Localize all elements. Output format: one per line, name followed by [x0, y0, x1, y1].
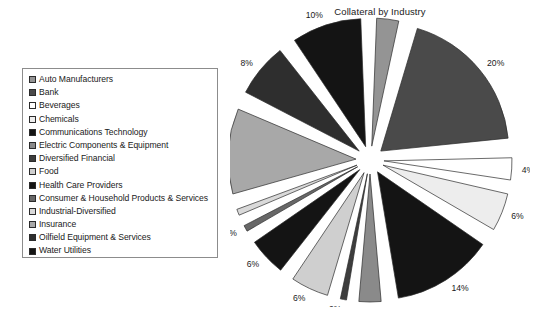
pie-slice-label: 2% [230, 228, 237, 238]
legend-item-label: Bank [39, 86, 58, 99]
pie-slice-label: 4% [389, 12, 402, 14]
legend-item-label: Diversified Financial [39, 152, 115, 165]
legend-item[interactable]: Health Care Providers [29, 179, 212, 192]
legend-item[interactable]: Industrial-Diversified [29, 205, 212, 218]
legend-swatch-icon [29, 182, 36, 189]
pie-chart: 4%20%4%6%14%4%2%6%6%2%2%12%8%10% [230, 12, 530, 307]
legend-item-label: Chemicals [39, 113, 79, 126]
pie-slice-label: 8% [240, 58, 253, 68]
legend-item-label: Insurance [39, 218, 76, 231]
pie-slice-label: 2% [329, 304, 342, 307]
legend-item[interactable]: Consumer & Household Products & Services [29, 192, 212, 205]
legend-item[interactable]: Diversified Financial [29, 152, 212, 165]
legend-item-label: Industrial-Diversified [39, 205, 116, 218]
chart-container: Collateral by Industry 4%20%4%6%14%4%2%6… [0, 0, 540, 311]
pie-slice[interactable] [230, 109, 356, 194]
legend-item[interactable]: Chemicals [29, 113, 212, 126]
legend-item-label: Auto Manufacturers [39, 73, 113, 86]
legend-item[interactable]: Insurance [29, 218, 212, 231]
legend-item-label: Beverages [39, 99, 80, 112]
legend-swatch-icon [29, 248, 36, 255]
pie-slice-label: 10% [306, 12, 324, 20]
legend-item-label: Health Care Providers [39, 179, 123, 192]
legend-item[interactable]: Food [29, 165, 212, 178]
pie-slice-label: 6% [511, 211, 524, 221]
legend-item[interactable]: Communications Technology [29, 126, 212, 139]
legend-item-label: Water Utilities [39, 244, 91, 257]
legend-item-label: Communications Technology [39, 126, 147, 139]
legend-item-label: Food [39, 165, 58, 178]
legend-swatch-icon [29, 76, 36, 83]
legend-item-label: Electric Components & Equipment [39, 139, 168, 152]
legend-swatch-icon [29, 142, 36, 149]
legend-swatch-icon [29, 221, 36, 228]
legend-list: Auto ManufacturersBankBeveragesChemicals… [29, 73, 212, 258]
legend-swatch-icon [29, 116, 36, 123]
legend-swatch-icon [29, 208, 36, 215]
legend-swatch-icon [29, 234, 36, 241]
legend-item[interactable]: Oilfield Equipment & Services [29, 231, 212, 244]
legend-swatch-icon [29, 195, 36, 202]
pie-slice-label: 20% [487, 58, 505, 68]
pie-slice[interactable] [359, 174, 381, 302]
legend-swatch-icon [29, 155, 36, 162]
legend-swatch-icon [29, 89, 36, 96]
legend-item-label: Consumer & Household Products & Services [39, 192, 208, 205]
legend-item[interactable]: Beverages [29, 99, 212, 112]
pie-slice-group [230, 18, 512, 302]
chart-legend: Auto ManufacturersBankBeveragesChemicals… [22, 68, 218, 258]
pie-slice[interactable] [381, 28, 508, 151]
legend-item[interactable]: Water Utilities [29, 244, 212, 257]
legend-item[interactable]: Electric Components & Equipment [29, 139, 212, 152]
legend-item-label: Oilfield Equipment & Services [39, 231, 151, 244]
pie-slice-label: 6% [247, 259, 260, 269]
legend-item[interactable]: Bank [29, 86, 212, 99]
pie-slice-label: 14% [451, 283, 469, 293]
pie-slice-label: 6% [293, 293, 306, 303]
legend-item[interactable]: Auto Manufacturers [29, 73, 212, 86]
legend-swatch-icon [29, 129, 36, 136]
legend-swatch-icon [29, 168, 36, 175]
pie-slice-label: 4% [522, 165, 530, 175]
legend-swatch-icon [29, 102, 36, 109]
